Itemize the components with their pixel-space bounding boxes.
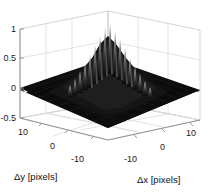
y-tick-label-0: 0 bbox=[50, 142, 55, 151]
x-tick-label-minus10: -10 bbox=[124, 155, 137, 164]
surface-plot-canvas bbox=[0, 0, 213, 193]
z-tick-label-1: 1 bbox=[2, 25, 16, 34]
x-tick-label-0: 0 bbox=[160, 143, 165, 152]
z-tick-label-0point5: 0.5 bbox=[0, 54, 16, 63]
x-axis-title: Δx [pixels] bbox=[137, 175, 180, 185]
figure-panel: 1 0.5 0 -0.5 10 0 -10 -10 0 10 Δy [pixel… bbox=[0, 0, 213, 193]
y-tick-label-minus10: -10 bbox=[71, 155, 84, 164]
z-tick-label-0: 0 bbox=[2, 84, 16, 93]
y-tick-label-10: 10 bbox=[18, 128, 28, 137]
y-axis-title: Δy [pixels] bbox=[14, 172, 57, 182]
x-tick-label-10: 10 bbox=[186, 129, 196, 138]
z-tick-label-minus0point5: -0.5 bbox=[0, 114, 16, 123]
